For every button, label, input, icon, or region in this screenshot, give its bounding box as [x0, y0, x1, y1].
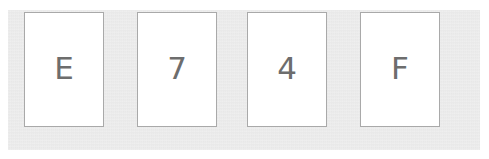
- character-glyph-3: 4: [277, 53, 297, 84]
- character-tile-3[interactable]: 4: [247, 12, 327, 127]
- captcha-widget: E 7 4 F: [0, 0, 489, 159]
- character-tile-4[interactable]: F: [360, 12, 440, 127]
- character-tile-row: E 7 4 F: [0, 0, 472, 140]
- character-glyph-2: 7: [167, 53, 187, 84]
- character-tile-1[interactable]: E: [24, 12, 104, 127]
- character-glyph-4: F: [391, 53, 409, 84]
- character-glyph-1: E: [54, 53, 74, 84]
- character-tile-2[interactable]: 7: [137, 12, 217, 127]
